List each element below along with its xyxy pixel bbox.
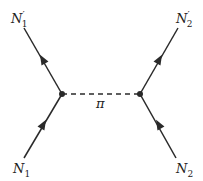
label-base: N — [176, 11, 187, 26]
label-n1-prime: N′1 — [11, 12, 27, 29]
label-prime: ′ — [22, 9, 24, 20]
label-sub: 1 — [22, 19, 28, 29]
label-base: N — [13, 161, 24, 176]
label-n1: N1 — [13, 162, 30, 179]
label-pion: π — [96, 97, 105, 110]
pion-symbol: π — [96, 96, 105, 111]
arrow-icon — [38, 118, 50, 131]
label-sub: 2 — [187, 169, 193, 179]
arrow-icon — [154, 53, 166, 66]
feynman-diagram: N′1 N′2 N1 N2 π — [0, 0, 203, 181]
vertex-right — [137, 91, 143, 97]
vertex-left — [59, 91, 65, 97]
label-base: N — [176, 161, 187, 176]
label-n2-prime: N′2 — [176, 12, 192, 29]
label-sub: 2 — [187, 19, 193, 29]
label-n2: N2 — [176, 162, 193, 179]
label-base: N — [11, 11, 22, 26]
label-sub: 1 — [24, 169, 30, 179]
diagram-graphics — [0, 0, 203, 181]
label-prime: ′ — [187, 9, 189, 20]
arrow-icon — [37, 53, 49, 66]
